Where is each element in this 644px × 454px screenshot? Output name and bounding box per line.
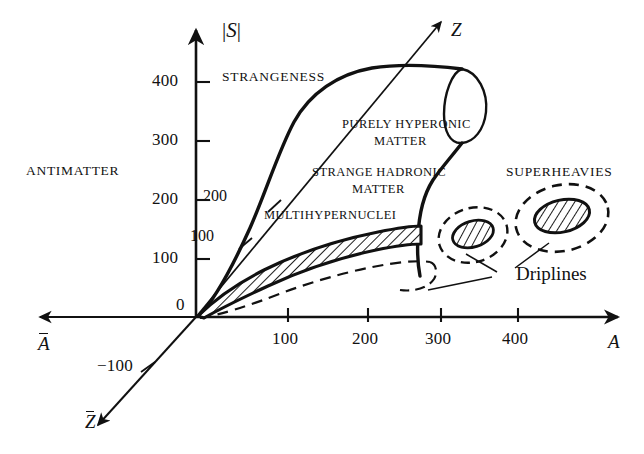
label-strangeness: STRANGENESS [222, 70, 325, 84]
superheavy-core-large [531, 194, 593, 238]
label-purely-hyperonic-line1: PURELY HYPERONIC [342, 118, 471, 131]
x-tick-400: 400 [502, 330, 528, 347]
x-tick-200: 200 [352, 330, 378, 347]
z-bar-tick-minus100: −100 [97, 357, 133, 374]
y-axis-label: |S| [222, 20, 241, 41]
x-axis-ticks [288, 308, 518, 322]
x-tick-100: 100 [272, 330, 298, 347]
z-bar-axis-label: Z [85, 412, 96, 431]
label-strange-hadronic-line1: STRANGE HADRONIC [312, 166, 446, 179]
a-bar-axis-label: A [38, 334, 50, 353]
multihypernuclei-hatched-area [198, 226, 421, 318]
superheavy-island-large [509, 175, 615, 260]
y-tick-0: 0 [176, 296, 185, 313]
superheavy-island-small [432, 199, 515, 271]
label-superheavies: SUPERHEAVIES [506, 165, 612, 179]
y-tick-200: 200 [152, 190, 178, 207]
multihypernuclei-band [198, 226, 421, 318]
z-axis-label: Z [451, 20, 462, 39]
label-multihypernuclei: MULTIHYPERNUCLEI [264, 209, 396, 222]
upper-boundary-curve [199, 65, 462, 316]
figure-canvas: |S| 400 300 200 100 0 100 200 300 400 A … [0, 0, 644, 454]
z-tick-100: 100 [190, 228, 214, 244]
y-tick-300: 300 [152, 131, 178, 148]
label-antimatter: ANTIMATTER [26, 164, 119, 178]
leader-to-band [428, 277, 492, 290]
lower-right-flank [418, 143, 462, 276]
superheavy-core-small [449, 215, 497, 252]
label-purely-hyperonic-line2: MATTER [374, 135, 427, 148]
a-bar-glyph: A [38, 334, 50, 353]
tube-end-ellipse [444, 69, 486, 143]
matter-body-outline [199, 65, 486, 316]
z-bar-glyph: Z [85, 412, 96, 431]
y-tick-400: 400 [152, 72, 178, 89]
z-tick-200: 200 [203, 188, 227, 204]
y-tick-100: 100 [152, 249, 178, 266]
x-tick-300: 300 [425, 330, 451, 347]
x-axis-label: A [608, 332, 620, 351]
label-strange-hadronic-line2: MATTER [352, 183, 405, 196]
label-driplines: Driplines [516, 264, 587, 283]
